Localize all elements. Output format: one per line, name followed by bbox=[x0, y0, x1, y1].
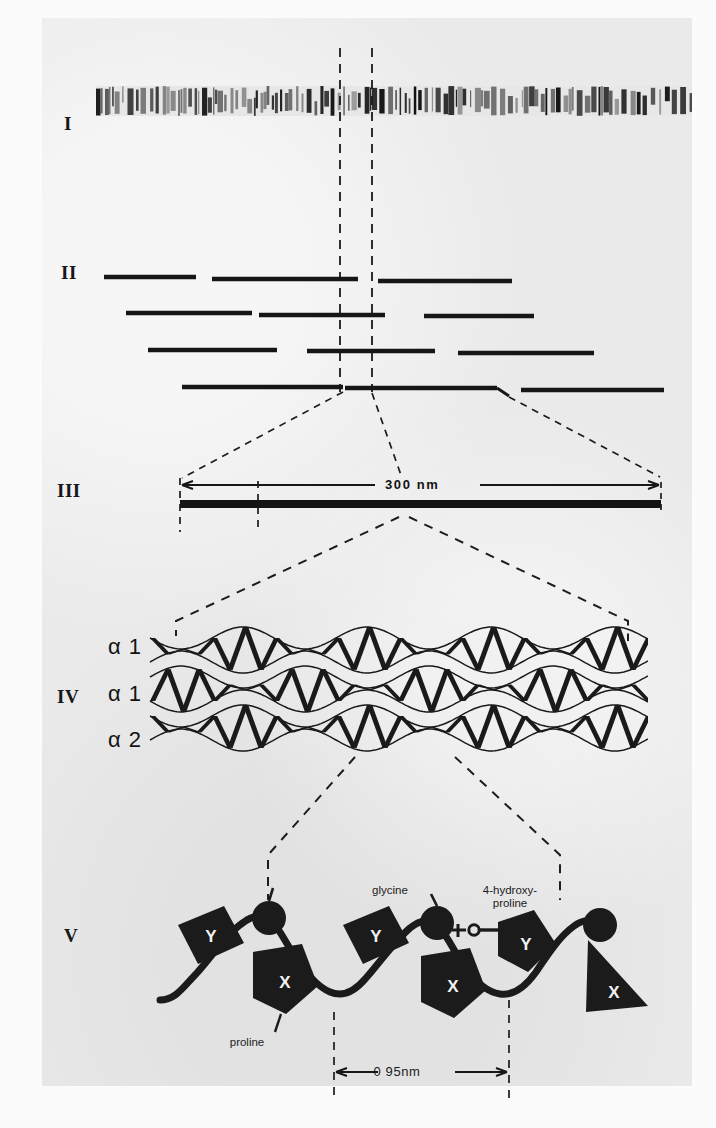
panel3-molecule bbox=[180, 478, 661, 532]
fibril-banding bbox=[96, 86, 692, 116]
hydroxyl-h-icon bbox=[452, 924, 466, 937]
expansion-lines-IV-V bbox=[268, 757, 560, 900]
figure-artwork: Y Y Y X X X bbox=[0, 0, 716, 1128]
residue-x-glyph-3: X bbox=[608, 983, 620, 1002]
triple-helix-drawing bbox=[150, 627, 651, 751]
residue-x-glyph-1: X bbox=[279, 973, 291, 992]
staggered-molecule-rows bbox=[104, 277, 664, 390]
collagen-molecule-bar bbox=[180, 500, 661, 508]
residue-y-glyph-1: Y bbox=[205, 927, 217, 946]
glycine-pointer-1 bbox=[269, 888, 273, 901]
polypeptide-chain: Y Y Y X X X bbox=[160, 888, 648, 1100]
row4-kink bbox=[497, 388, 509, 396]
expansion-lines-III-IV bbox=[176, 517, 628, 641]
hydroxyl-oxygen-icon bbox=[469, 925, 479, 935]
collagen-structure-figure: I II III IV V α 1 α 1 α 2 glycine 4-hydr… bbox=[0, 0, 716, 1128]
glycine-pointer-2 bbox=[431, 894, 437, 906]
expansion-lines-II-III bbox=[182, 392, 660, 478]
residue-y-glyph-2: Y bbox=[370, 927, 382, 946]
scale-arrow bbox=[182, 481, 659, 489]
measure-arrow-095nm bbox=[336, 1068, 507, 1076]
glycine-residue-2 bbox=[420, 906, 454, 940]
glycine-residue-1 bbox=[252, 901, 286, 935]
glycine-residue-3 bbox=[583, 908, 617, 942]
residue-y-glyph-3: Y bbox=[520, 935, 532, 954]
proline-pointer bbox=[275, 1014, 281, 1032]
residue-x-glyph-2: X bbox=[447, 977, 459, 996]
